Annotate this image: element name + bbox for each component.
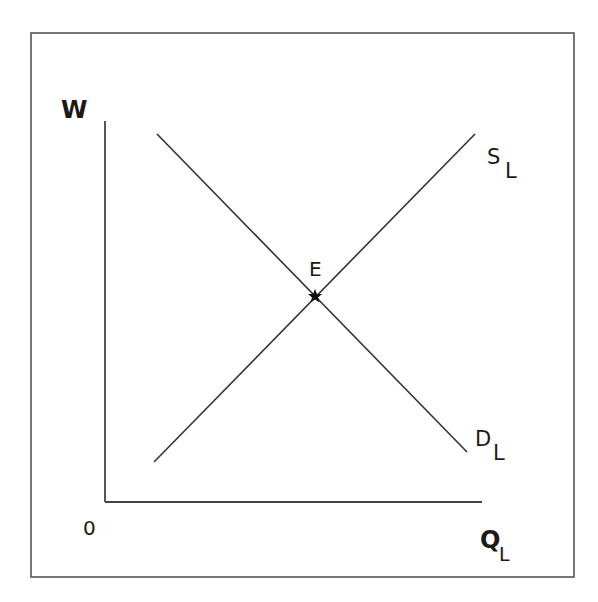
supply-curve-label: S [487, 145, 500, 169]
demand-curve [157, 134, 467, 452]
demand-curve-label-subscript: L [493, 441, 505, 465]
supply-curve-label-subscript: L [505, 159, 517, 183]
labor-market-diagram: W 0 Q L S L D L E [0, 0, 598, 602]
y-axis-label: W [61, 96, 87, 124]
origin-label: 0 [83, 516, 96, 540]
diagram-frame [31, 33, 574, 577]
x-axis-label-subscript: L [499, 543, 510, 565]
demand-curve-label: D [475, 427, 491, 451]
x-axis-label: Q [480, 526, 500, 554]
equilibrium-label: E [309, 257, 322, 281]
